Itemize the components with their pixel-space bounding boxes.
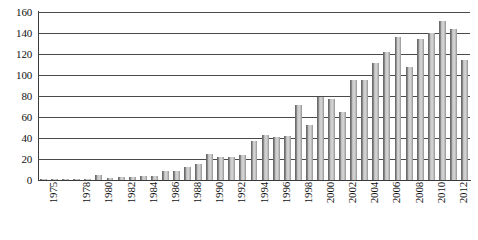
bar-1994 — [251, 141, 258, 180]
y-axis-tick-labels: 020406080100120140160 — [0, 0, 36, 192]
bar-1989 — [195, 164, 202, 180]
x-tick-label-1994: 1994 — [259, 182, 270, 203]
chart-root: 020406080100120140160 197519781980198219… — [0, 0, 478, 240]
bar-2001 — [328, 99, 335, 180]
bar-2004 — [361, 80, 368, 180]
x-tick-label-2012: 2012 — [458, 182, 469, 203]
y-tick-label-40: 40 — [21, 133, 32, 144]
bar-2002 — [339, 112, 346, 180]
x-tick-label-2002: 2002 — [347, 182, 358, 203]
x-tick-label-1988: 1988 — [192, 182, 203, 203]
x-tick-label-1975: 1975 — [48, 182, 59, 203]
x-axis-line — [38, 180, 471, 181]
bar-1986 — [162, 171, 169, 180]
x-tick-label-1986: 1986 — [170, 182, 181, 203]
x-tick-label-2004: 2004 — [369, 182, 380, 203]
x-tick-label-1990: 1990 — [214, 182, 225, 203]
x-tick-label-1992: 1992 — [236, 182, 247, 203]
bar-2003 — [350, 80, 357, 180]
bar-1995 — [262, 135, 269, 180]
bar-1997 — [284, 136, 291, 180]
bar-2009 — [417, 39, 424, 180]
x-axis-tick-labels: 1975197819801982198419861988199019921994… — [38, 182, 470, 240]
bar-2008 — [406, 67, 413, 180]
bar-1991 — [217, 157, 224, 180]
x-tick-label-2006: 2006 — [391, 182, 402, 203]
y-tick-label-120: 120 — [16, 49, 32, 60]
bar-2007 — [395, 37, 402, 180]
bar-series — [38, 12, 470, 180]
x-tick-label-2000: 2000 — [325, 182, 336, 203]
bar-2000 — [317, 97, 324, 180]
y-tick-label-0: 0 — [27, 175, 32, 186]
bar-2012 — [450, 29, 457, 180]
bar-1999 — [306, 125, 313, 180]
bar-2011 — [439, 21, 446, 180]
bar-1988 — [184, 167, 191, 180]
bar-1990 — [206, 154, 213, 180]
bar-2010 — [428, 33, 435, 180]
plot-area — [38, 12, 470, 180]
bar-2006 — [383, 52, 390, 180]
bar-2013 — [461, 60, 468, 180]
bar-1998 — [295, 105, 302, 180]
y-tick-label-100: 100 — [16, 70, 32, 81]
y-tick-label-80: 80 — [21, 91, 32, 102]
x-tick-label-1996: 1996 — [281, 182, 292, 203]
bar-2005 — [372, 63, 379, 180]
x-tick-label-2008: 2008 — [414, 182, 425, 203]
x-tick-label-1984: 1984 — [148, 182, 159, 203]
x-tick-label-1982: 1982 — [126, 182, 137, 203]
y-tick-label-60: 60 — [21, 112, 32, 123]
bar-1993 — [239, 155, 246, 180]
bar-1987 — [173, 171, 180, 180]
y-tick-label-160: 160 — [16, 7, 32, 18]
bar-1992 — [228, 157, 235, 180]
bar-1996 — [273, 137, 280, 180]
x-tick-label-1980: 1980 — [103, 182, 114, 203]
x-tick-label-2010: 2010 — [436, 182, 447, 203]
x-tick-label-1978: 1978 — [81, 182, 92, 203]
y-tick-label-140: 140 — [16, 28, 32, 39]
y-tick-label-20: 20 — [21, 154, 32, 165]
x-tick-label-1998: 1998 — [303, 182, 314, 203]
